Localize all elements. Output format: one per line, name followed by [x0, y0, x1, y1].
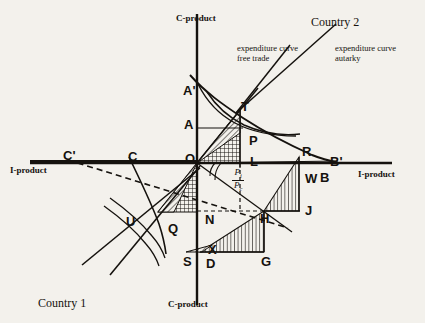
- trade-diagram-figure: C-product C-product I-product I-product …: [0, 0, 425, 323]
- point-label-N: N: [205, 213, 215, 226]
- price-ratio-label: Pi Pc: [232, 168, 244, 192]
- point-label-S: S: [183, 255, 192, 268]
- point-label-C: C: [128, 150, 138, 163]
- annotation-autarky-line1: expenditure curve: [335, 43, 396, 53]
- point-label-U: U: [126, 215, 136, 228]
- point-label-A-prime: A': [183, 84, 196, 97]
- axis-label-c-product-bottom: C-product: [168, 300, 208, 309]
- point-label-X: X: [208, 243, 217, 256]
- annotation-free-trade-line1: expenditure curve: [237, 43, 298, 53]
- point-label-L: L: [250, 155, 258, 168]
- axis-label-c-product-top: C-product: [176, 14, 216, 23]
- point-label-O: O: [185, 152, 195, 165]
- axis-label-i-product-left: I-product: [10, 166, 47, 175]
- point-label-B: B: [320, 171, 330, 184]
- point-label-Q: Q: [168, 222, 178, 235]
- annotation-free-trade-line2: free trade: [237, 53, 269, 63]
- point-label-P: P: [249, 134, 258, 147]
- point-label-T: T: [241, 100, 249, 113]
- point-label-R: R: [302, 145, 312, 158]
- annotation-expenditure-curve-free-trade: expenditure curve free trade: [237, 44, 298, 63]
- dashed-line-Cprime-to-H: [68, 160, 288, 228]
- indifference-curve-country1-a: [110, 198, 165, 258]
- point-label-C-prime: C': [63, 149, 76, 162]
- point-label-B-prime: B': [330, 155, 343, 168]
- title-country-2: Country 2: [311, 16, 359, 28]
- region-H-R-J-vertical: [264, 157, 299, 211]
- title-country-1: Country 1: [38, 297, 86, 309]
- annotation-expenditure-curve-autarky: expenditure curve autarky: [335, 44, 396, 63]
- point-label-H: H: [260, 212, 270, 225]
- point-label-G: G: [261, 255, 271, 268]
- annotation-autarky-line2: autarky: [335, 53, 361, 63]
- point-label-W: W: [305, 172, 317, 185]
- axis-label-i-product-right: I-product: [358, 170, 395, 179]
- expenditure-curve-autarky-line: [236, 24, 336, 113]
- hatched-regions: [158, 110, 299, 252]
- point-label-D: D: [206, 257, 216, 270]
- point-label-J: J: [305, 204, 312, 217]
- point-label-A: A: [184, 118, 194, 131]
- price-ratio-denominator: Pc: [232, 181, 244, 193]
- transformation-curve-country1: [129, 157, 166, 254]
